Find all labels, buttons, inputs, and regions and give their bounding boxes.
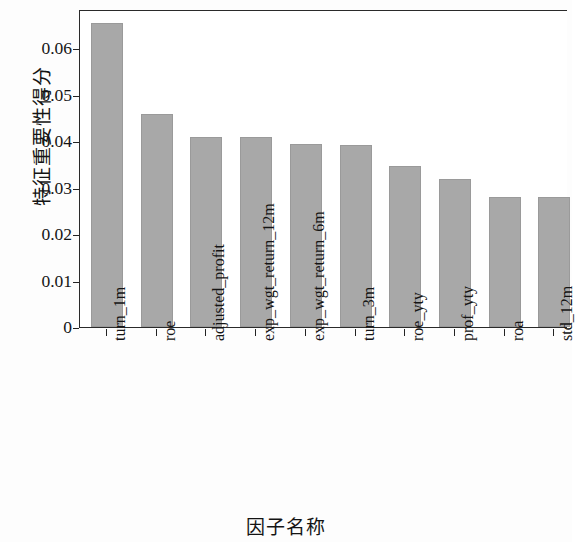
y-tick-label: 0.02 [41, 226, 72, 244]
y-tick-label: 0.01 [41, 273, 72, 291]
x-tick-mark [404, 329, 405, 336]
bar [141, 114, 173, 327]
x-tick-label: adjusted_profit [211, 244, 227, 341]
x-tick-mark [553, 329, 554, 336]
y-axis-tick-labels: 00.010.020.030.040.050.06 [0, 0, 72, 542]
x-tick-label: roa [510, 321, 526, 341]
x-tick-label: turn_1m [112, 287, 128, 341]
x-tick-label: exp_wgt_return_12m [261, 203, 277, 341]
x-tick-mark [305, 329, 306, 336]
y-tick-label: 0.03 [41, 180, 72, 198]
y-tick-label: 0 [63, 319, 72, 337]
y-tick-label: 0.06 [41, 40, 72, 58]
x-tick-mark [355, 329, 356, 336]
x-tick-label: roe [162, 321, 178, 341]
y-tick-mark [73, 328, 79, 329]
x-tick-label: turn_3m [361, 287, 377, 341]
x-axis-title: 因子名称 [0, 512, 572, 539]
bar [489, 197, 521, 327]
y-tick-label: 0.04 [41, 133, 72, 151]
x-tick-mark [454, 329, 455, 336]
bar [91, 23, 123, 327]
y-tick-label: 0.05 [41, 87, 72, 105]
x-tick-mark [504, 329, 505, 336]
x-tick-label: exp_wgt_return_6m [311, 211, 327, 341]
x-tick-label: std_12m [559, 286, 575, 341]
x-tick-mark [255, 329, 256, 336]
x-tick-mark [156, 329, 157, 336]
x-tick-label: prof_yty [460, 286, 476, 341]
x-tick-mark [106, 329, 107, 336]
x-tick-mark [205, 329, 206, 336]
x-tick-label: roe_yty [410, 292, 426, 341]
